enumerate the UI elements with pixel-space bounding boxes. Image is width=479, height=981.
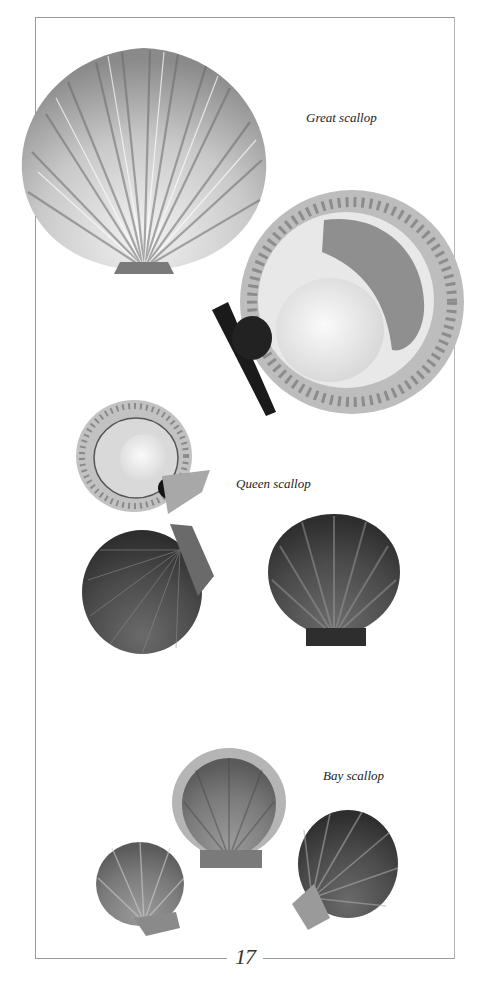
bay-scallop-shell-left (94, 838, 188, 938)
caption-queen-scallop: Queen scallop (236, 476, 311, 492)
bay-scallop-shell-right (290, 808, 400, 934)
queen-scallop-shell-left (80, 520, 216, 656)
caption-great-scallop: Great scallop (306, 110, 377, 126)
queen-scallop-shell-right (266, 510, 402, 648)
caption-bay-scallop: Bay scallop (323, 768, 384, 784)
great-scallop-opened (212, 182, 466, 417)
bottom-rule-left (35, 958, 227, 959)
queen-scallop-opened (72, 396, 212, 520)
page-number: 17 (227, 944, 263, 970)
bottom-rule-right (263, 958, 455, 959)
